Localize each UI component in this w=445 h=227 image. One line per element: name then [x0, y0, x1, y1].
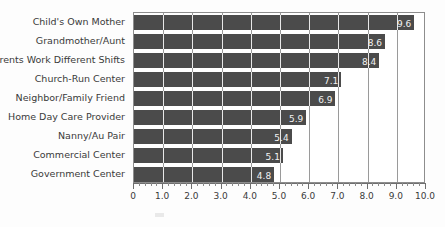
x-axis-minor-tick — [390, 183, 391, 186]
x-axis-minor-tick — [139, 183, 140, 186]
bar-gridline — [280, 148, 281, 163]
bar-gridline-overlay — [134, 72, 341, 87]
bar-value-label: 9.6 — [397, 17, 411, 32]
bar: 4.8 — [134, 167, 274, 182]
bar-gridline — [192, 53, 193, 68]
x-axis-minor-tick — [285, 183, 286, 186]
bar-gridline — [192, 110, 193, 125]
bar: 7.1 — [134, 72, 341, 87]
bar-gridline-overlay — [134, 129, 292, 144]
x-axis-minor-tick — [226, 183, 227, 186]
scan-artifact — [155, 213, 164, 217]
bar-value-label: 5.4 — [274, 131, 288, 146]
x-axis-minor-tick — [413, 183, 414, 186]
x-axis-minor-tick — [320, 183, 321, 186]
bar-gridline — [192, 15, 193, 30]
bar-gridline — [163, 91, 164, 106]
bar-gridline — [163, 34, 164, 49]
bar-gridline-overlay — [134, 148, 283, 163]
bar-row: 5.1 — [134, 146, 426, 165]
bar-gridline — [309, 72, 310, 87]
x-axis-minor-tick — [402, 183, 403, 186]
bar-gridline — [222, 91, 223, 106]
bar-gridline — [251, 15, 252, 30]
x-axis-minor-tick — [215, 183, 216, 186]
x-axis-minor-tick — [186, 183, 187, 186]
bar-chart: Child's Own MotherGrandmother/AuntParent… — [0, 0, 445, 227]
bar-gridline — [251, 129, 252, 144]
category-label: Grandmother/Aunt — [36, 31, 125, 50]
x-axis-minor-tick — [302, 183, 303, 186]
bar-gridline — [338, 72, 339, 87]
bar-gridline — [338, 53, 339, 68]
bar-gridline — [222, 53, 223, 68]
bar-gridline — [368, 15, 369, 30]
x-axis-minor-tick — [314, 183, 315, 186]
bar-gridline — [192, 167, 193, 182]
x-axis-minor-tick — [267, 183, 268, 186]
bar-gridline — [280, 15, 281, 30]
bar-gridline-overlay — [134, 167, 274, 182]
bar-gridline-overlay — [134, 15, 414, 30]
bar-row: 8.4 — [134, 51, 426, 70]
category-label: Parents Work Different Shifts — [0, 50, 125, 69]
bar-gridline — [309, 91, 310, 106]
x-axis-tick-label: 5.0 — [272, 191, 286, 201]
bar-gridline — [280, 72, 281, 87]
bar-gridline — [192, 148, 193, 163]
bar: 9.6 — [134, 15, 414, 30]
bar-value-label: 8.6 — [368, 36, 382, 51]
bar-gridline — [222, 15, 223, 30]
bar-gridline — [338, 34, 339, 49]
category-label: Commercial Center — [33, 145, 125, 164]
bar-gridline — [163, 129, 164, 144]
bar-gridline — [192, 34, 193, 49]
bar-gridline — [222, 72, 223, 87]
bar-row: 5.9 — [134, 108, 426, 127]
bar-row: 4.8 — [134, 165, 426, 184]
category-label: Home Day Care Provider — [8, 107, 125, 126]
bar-gridline — [163, 53, 164, 68]
x-axis-tick-label: 4.0 — [243, 191, 257, 201]
x-axis-minor-tick — [145, 183, 146, 186]
x-axis-major-tick — [279, 183, 280, 189]
x-axis-minor-tick — [238, 183, 239, 186]
x-axis-tick-labels: 01.02.03.04.05.06.07.08.09.010.0 — [133, 191, 425, 205]
bar-gridline — [338, 15, 339, 30]
plot-area: 9.68.68.47.16.95.95.45.14.8 — [133, 12, 425, 183]
x-axis-tick-label: 10.0 — [415, 191, 435, 201]
bar-gridline — [251, 110, 252, 125]
x-axis-minor-tick — [355, 183, 356, 186]
bar-row: 6.9 — [134, 89, 426, 108]
x-axis-minor-tick — [197, 183, 198, 186]
bar: 8.4 — [134, 53, 379, 68]
x-axis-minor-tick — [332, 183, 333, 186]
x-axis-minor-tick — [203, 183, 204, 186]
bar-value-label: 5.1 — [266, 150, 280, 165]
x-axis-tick-label: 2.0 — [184, 191, 198, 201]
bar-gridline — [251, 91, 252, 106]
category-label: Neighbor/Family Friend — [16, 88, 125, 107]
x-axis-minor-tick — [273, 183, 274, 186]
x-axis-major-tick — [221, 183, 222, 189]
x-axis-minor-tick — [151, 183, 152, 186]
x-axis-tick-label: 3.0 — [213, 191, 227, 201]
x-axis-tick-label: 1.0 — [155, 191, 169, 201]
x-axis-tick-label: 0 — [130, 191, 136, 201]
x-axis-major-tick — [396, 183, 397, 189]
bar-gridline — [251, 72, 252, 87]
bar-gridline — [280, 34, 281, 49]
x-axis-minor-tick — [168, 183, 169, 186]
x-axis-tick-label: 7.0 — [330, 191, 344, 201]
category-axis-labels: Child's Own MotherGrandmother/AuntParent… — [0, 12, 129, 183]
bar-gridline-overlay — [134, 53, 379, 68]
x-axis-major-tick — [162, 183, 163, 189]
bar-gridline — [309, 53, 310, 68]
x-axis-major-tick — [133, 183, 134, 189]
x-axis-major-tick — [250, 183, 251, 189]
bar-row: 9.6 — [134, 13, 426, 32]
bar-gridline — [280, 91, 281, 106]
x-axis-minor-tick — [180, 183, 181, 186]
category-label: Government Center — [31, 164, 125, 183]
bar-row: 5.4 — [134, 127, 426, 146]
